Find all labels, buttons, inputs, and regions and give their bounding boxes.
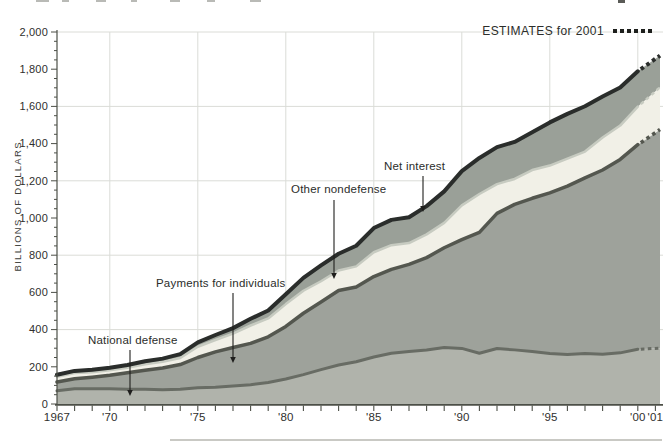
svg-text:'95: '95	[542, 411, 558, 423]
svg-text:'70: '70	[102, 411, 118, 423]
estimates-legend: ESTIMATES for 2001	[482, 24, 652, 38]
annotation-payments-for-individuals: Payments for individuals	[156, 277, 285, 289]
svg-text:1,000: 1,000	[19, 212, 48, 224]
svg-text:600: 600	[29, 286, 48, 298]
svg-text:'85: '85	[366, 411, 382, 423]
annotation-net-interest: Net interest	[384, 160, 445, 172]
svg-text:1,800: 1,800	[19, 63, 48, 75]
svg-text:'00: '00	[630, 411, 646, 423]
svg-text:'90: '90	[454, 411, 470, 423]
svg-text:800: 800	[29, 249, 48, 261]
svg-text:'01: '01	[648, 411, 663, 423]
svg-text:1,400: 1,400	[19, 137, 48, 149]
svg-text:200: 200	[29, 361, 48, 373]
annotation-national-defense: National defense	[88, 334, 178, 346]
estimates-dotted-marker	[613, 29, 652, 33]
svg-text:1,200: 1,200	[19, 175, 48, 187]
svg-text:'80: '80	[278, 411, 294, 423]
svg-text:1,600: 1,600	[19, 100, 48, 112]
annotation-other-nondefense: Other nondefense	[291, 183, 386, 195]
svg-text:2,000: 2,000	[19, 26, 48, 38]
svg-text:0: 0	[42, 398, 48, 410]
svg-text:400: 400	[29, 323, 48, 335]
outlays-stacked-area-figure: 02004006008001,0001,2001,4001,6001,8002,…	[0, 0, 663, 443]
bottom-page-rule	[170, 439, 662, 441]
chart-svg: 02004006008001,0001,2001,4001,6001,8002,…	[0, 0, 663, 443]
svg-text:1967: 1967	[44, 411, 70, 423]
svg-text:'75: '75	[190, 411, 206, 423]
y-axis-title: BILLIONS OF DOLLARS	[12, 172, 23, 272]
estimates-legend-label: ESTIMATES for 2001	[482, 24, 604, 38]
